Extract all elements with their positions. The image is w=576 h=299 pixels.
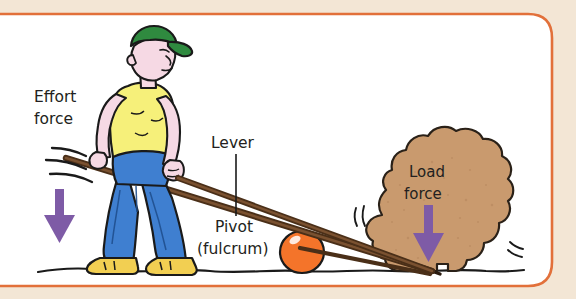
lever-diagram-figure: Effort force Lever Pivot (fulcrum) Load … bbox=[0, 0, 576, 299]
worker-pants bbox=[113, 150, 171, 186]
worker-shirt bbox=[110, 83, 174, 157]
worker-left-boot bbox=[87, 258, 138, 274]
load-force-label-line1: Load bbox=[409, 163, 445, 181]
worker-right-boot bbox=[146, 258, 197, 275]
pivot-label-line2: (fulcrum) bbox=[197, 240, 269, 258]
diagram-canvas: Effort force Lever Pivot (fulcrum) Load … bbox=[0, 0, 576, 299]
effort-force-label-line2: force bbox=[34, 110, 73, 128]
worker-back-hand bbox=[89, 152, 107, 169]
load-force-label-line2: force bbox=[404, 185, 442, 203]
effort-force-label-line1: Effort bbox=[34, 88, 76, 106]
pivot-label-line1: Pivot bbox=[215, 218, 253, 236]
lever-label: Lever bbox=[211, 134, 255, 152]
